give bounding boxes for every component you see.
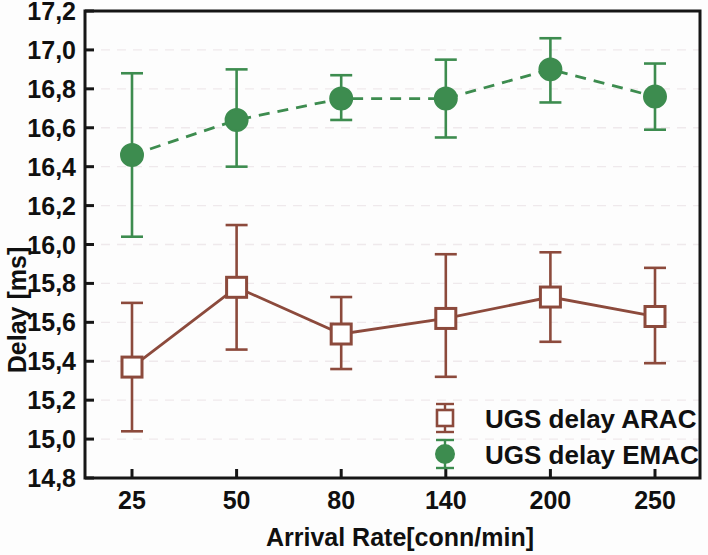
x-tick-label: 80 — [327, 486, 355, 514]
legend-label: UGS delay EMAC — [485, 440, 699, 470]
series-2 — [121, 38, 666, 236]
x-tick-label: 250 — [634, 486, 676, 514]
data-point-marker — [435, 88, 457, 110]
y-tick-label: 15,4 — [27, 347, 76, 375]
y-tick-label: 16,2 — [27, 192, 76, 220]
x-tick-label: 50 — [223, 486, 251, 514]
data-point-marker — [122, 357, 142, 377]
y-tick-label: 16,4 — [27, 153, 76, 181]
data-point-marker — [226, 109, 248, 131]
legend: UGS delay ARACUGS delay EMAC — [436, 404, 699, 470]
data-point-marker — [436, 308, 456, 328]
legend-label: UGS delay ARAC — [485, 404, 697, 434]
x-axis-ticks: 255080140200250 — [118, 469, 676, 514]
data-point-marker — [645, 306, 665, 326]
data-point-marker — [121, 144, 143, 166]
legend-entry-2: UGS delay EMAC — [436, 440, 699, 470]
y-tick-label: 17,0 — [27, 36, 76, 64]
x-axis-label: Arrival Rate[conn/min] — [266, 523, 534, 551]
data-point-marker — [227, 277, 247, 297]
series-line — [132, 69, 655, 155]
y-tick-label: 15,8 — [27, 269, 76, 297]
legend-marker — [436, 445, 454, 463]
gridlines-layer — [85, 50, 700, 439]
chart-container: 14,815,015,215,415,615,816,016,216,416,6… — [0, 0, 708, 555]
y-axis-label: Delay [ms] — [3, 247, 31, 373]
series-layer — [121, 38, 666, 431]
y-tick-label: 16,0 — [27, 231, 76, 259]
y-tick-label: 15,6 — [27, 308, 76, 336]
y-tick-label: 15,2 — [27, 386, 76, 414]
y-tick-label: 15,0 — [27, 425, 76, 453]
delay-vs-arrival-rate-chart: 14,815,015,215,415,615,816,016,216,416,6… — [0, 0, 708, 555]
x-tick-label: 200 — [530, 486, 572, 514]
data-point-marker — [644, 86, 666, 108]
x-tick-label: 140 — [425, 486, 467, 514]
y-tick-label: 17,2 — [27, 0, 76, 25]
legend-entry-1: UGS delay ARAC — [436, 404, 697, 434]
x-tick-label: 25 — [118, 486, 146, 514]
legend-marker — [437, 410, 453, 426]
y-tick-label: 16,6 — [27, 114, 76, 142]
y-tick-label: 14,8 — [27, 464, 76, 492]
data-point-marker — [330, 88, 352, 110]
data-point-marker — [540, 287, 560, 307]
series-line — [132, 287, 655, 367]
data-point-marker — [539, 58, 561, 80]
data-point-marker — [331, 324, 351, 344]
y-tick-label: 16,8 — [27, 75, 76, 103]
